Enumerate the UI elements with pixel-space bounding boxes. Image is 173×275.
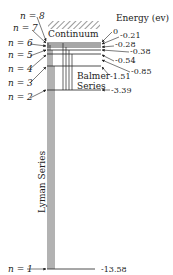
energy-axis-title: Energy (ev) <box>116 13 169 23</box>
svg-text:-0.54: -0.54 <box>115 56 136 65</box>
svg-text:n = 4: n = 4 <box>8 64 33 74</box>
svg-text:0: 0 <box>113 27 118 36</box>
energy-level-diagram: n = 8 n = 7 n = 6 n = 5 n = 4 n = 3 n = … <box>0 0 173 275</box>
svg-text:-3.39: -3.39 <box>111 86 132 95</box>
continuum-hatch <box>48 21 100 29</box>
svg-text:-0.38: -0.38 <box>130 47 151 56</box>
svg-text:-0.85: -0.85 <box>131 67 152 76</box>
svg-text:-1.51: -1.51 <box>110 72 131 81</box>
svg-text:n = 5: n = 5 <box>8 50 33 60</box>
svg-text:-13.58: -13.58 <box>101 265 127 274</box>
continuum-label: Continuum <box>48 29 99 39</box>
svg-text:n = 8: n = 8 <box>20 11 45 21</box>
balmer-series-label-line2: Series <box>77 81 106 91</box>
svg-text:n = 2: n = 2 <box>8 92 33 102</box>
lyman-lines <box>48 43 54 269</box>
balmer-series-label: Balmer <box>77 71 111 81</box>
svg-text:n = 6: n = 6 <box>8 38 33 48</box>
lyman-series-label: Lyman Series <box>37 151 47 213</box>
svg-text:-0.21: -0.21 <box>120 31 141 40</box>
svg-text:n = 7: n = 7 <box>13 23 38 33</box>
svg-text:n = 3: n = 3 <box>8 78 33 88</box>
energy-labels: 0 -0.21 -0.28 -0.38 -0.54 -0.85 -1.51 -3… <box>101 27 152 274</box>
level-labels: n = 8 n = 7 n = 6 n = 5 n = 4 n = 3 n = … <box>8 11 46 274</box>
